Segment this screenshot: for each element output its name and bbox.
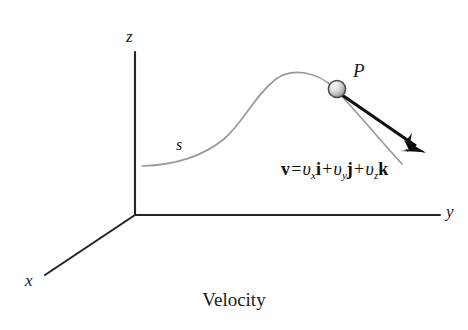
equation-plus-2: +	[353, 159, 365, 179]
figure-caption: Velocity	[0, 290, 468, 309]
particle-sphere	[328, 80, 345, 97]
figure-canvas	[0, 0, 468, 330]
point-label-p: P	[353, 61, 365, 80]
velocity-equation: v=υxi+υyj+υzk	[281, 160, 388, 181]
equation-equals: =	[290, 159, 302, 179]
x-axis-line	[45, 215, 135, 275]
equation-term-3-unit-vector: k	[378, 159, 388, 179]
equation-term-1-scalar: υ	[303, 159, 311, 179]
velocity-figure: z y x s P v=υxi+υyj+υzk Velocity	[0, 0, 468, 330]
path-label-s: s	[176, 137, 182, 153]
y-axis-label: y	[446, 203, 454, 220]
x-axis-label: x	[25, 272, 33, 289]
equation-plus-1: +	[321, 159, 333, 179]
z-axis-label: z	[126, 28, 133, 45]
equation-lhs-vector: v	[281, 159, 290, 179]
equation-term-3-scalar: υ	[365, 159, 373, 179]
particle-sphere-body	[328, 80, 345, 97]
equation-term-2-scalar: υ	[333, 159, 341, 179]
